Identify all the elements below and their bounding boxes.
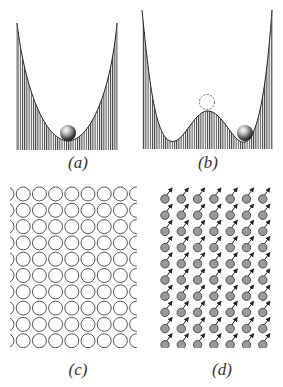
lattice-circle — [10, 285, 14, 299]
spin-site — [193, 301, 204, 316]
spin-site — [177, 237, 188, 252]
panel-b-label: (b) — [178, 153, 238, 173]
spin-dot — [177, 243, 185, 251]
spin-dot — [161, 341, 169, 348]
spin-site — [259, 220, 270, 235]
lattice-circle — [130, 334, 138, 348]
spin-dot — [242, 324, 250, 332]
spin-dot — [210, 292, 218, 300]
lattice-circle — [32, 269, 46, 283]
lattice-circle — [97, 220, 111, 234]
spin-site — [210, 301, 221, 316]
spin-site — [242, 237, 253, 252]
spin-site — [259, 334, 270, 348]
lattice-circle — [97, 187, 111, 201]
spin-site — [259, 285, 270, 300]
spin-dot — [226, 276, 234, 284]
spin-site — [242, 301, 253, 316]
spin-dot — [226, 341, 234, 348]
spin-dot — [193, 292, 201, 300]
lattice-circle — [65, 236, 79, 250]
spin-site — [259, 188, 270, 203]
spin-site — [259, 253, 270, 268]
lattice-circle — [16, 301, 30, 315]
panel-c-circle-lattice — [10, 186, 138, 348]
lattice-circle — [16, 220, 30, 234]
spin-site — [226, 285, 237, 300]
spin-dot — [193, 211, 201, 219]
lattice-circle — [49, 236, 63, 250]
spin-dot — [210, 276, 218, 284]
spin-site — [193, 188, 204, 203]
spin-dot — [242, 243, 250, 251]
lattice-circle — [113, 301, 127, 315]
spin-dot — [259, 227, 267, 235]
spin-dot — [210, 211, 218, 219]
panel-b-double-well — [141, 0, 283, 152]
dashed-ball-outline-icon — [200, 95, 215, 110]
lattice-circle — [10, 252, 14, 266]
lattice-circle — [113, 334, 127, 348]
spin-dot — [259, 260, 267, 268]
spin-dot — [161, 324, 169, 332]
spin-dot — [210, 260, 218, 268]
lattice-circle — [113, 236, 127, 250]
spin-dot — [161, 308, 169, 316]
lattice-circle — [81, 220, 95, 234]
lattice-circle — [130, 203, 138, 217]
spin-site — [193, 204, 204, 219]
spin-site — [177, 334, 188, 348]
spin-dot — [226, 227, 234, 235]
lattice-circle — [65, 334, 79, 348]
lattice-circle — [65, 301, 79, 315]
spin-dot — [193, 341, 201, 348]
spin-site — [210, 285, 221, 300]
spin-dot — [193, 260, 201, 268]
lattice-circle — [81, 236, 95, 250]
panel-a-single-well — [0, 0, 141, 150]
panel-d-spin-lattice — [155, 184, 280, 348]
spin-dot — [210, 195, 218, 203]
spin-site — [210, 237, 221, 252]
lattice-circle — [65, 187, 79, 201]
spin-site — [259, 269, 270, 284]
spin-dot — [259, 276, 267, 284]
lattice-circle — [10, 301, 14, 315]
lattice-circle — [113, 187, 127, 201]
spin-dot — [259, 243, 267, 251]
spin-site — [177, 301, 188, 316]
spin-site — [242, 269, 253, 284]
lattice-circle — [81, 269, 95, 283]
spin-dot — [177, 292, 185, 300]
spin-dot — [161, 260, 169, 268]
lattice-circle — [49, 252, 63, 266]
lattice-circle — [81, 203, 95, 217]
spin-dot — [242, 341, 250, 348]
spin-site — [177, 269, 188, 284]
lattice-circle — [49, 220, 63, 234]
spin-site — [226, 318, 237, 333]
lattice-circle — [130, 269, 138, 283]
spin-site — [242, 253, 253, 268]
spin-dot — [177, 341, 185, 348]
spin-dot — [210, 227, 218, 235]
lattice-circle — [49, 269, 63, 283]
lattice-circle — [97, 236, 111, 250]
lattice-circle — [97, 252, 111, 266]
lattice-circle — [65, 252, 79, 266]
lattice-circle — [113, 269, 127, 283]
spin-site — [161, 318, 172, 333]
lattice-circle — [130, 187, 138, 201]
spin-dot — [177, 227, 185, 235]
lattice-circle — [97, 285, 111, 299]
spin-site — [226, 188, 237, 203]
lattice-circle — [113, 220, 127, 234]
lattice-circle — [65, 203, 79, 217]
spin-site — [161, 301, 172, 316]
spin-site — [226, 301, 237, 316]
spin-site — [161, 253, 172, 268]
spin-dot — [193, 324, 201, 332]
spin-dot — [226, 195, 234, 203]
spin-dot — [259, 324, 267, 332]
lattice-circle — [10, 203, 14, 217]
